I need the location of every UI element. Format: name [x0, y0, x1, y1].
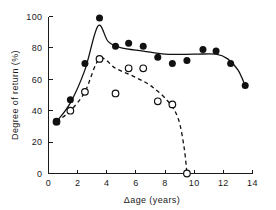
y-axis-tick-labels: 020406080100	[26, 12, 42, 179]
x-axis-tick-marks	[49, 170, 253, 174]
x-tick-label: 6	[133, 178, 138, 188]
chart-axes	[49, 17, 253, 174]
axis-lines	[49, 17, 253, 174]
y-axis-tick-marks	[49, 17, 53, 143]
x-tick-label: 8	[162, 178, 167, 188]
data-point-marker	[67, 107, 74, 114]
x-tick-label: 4	[104, 178, 109, 188]
y-axis-title: Degree of return (%)	[10, 50, 20, 140]
data-point-marker	[227, 60, 234, 67]
filled-circle-series-curve	[57, 25, 246, 122]
y-tick-label: 40	[32, 106, 43, 116]
data-point-marker	[125, 40, 132, 47]
data-point-marker	[82, 89, 89, 96]
y-tick-label: 20	[32, 137, 43, 147]
chart-series-layer	[53, 15, 249, 177]
x-axis-title: Δage (years)	[124, 195, 180, 205]
y-tick-label: 100	[26, 12, 42, 22]
x-tick-label: 2	[75, 178, 80, 188]
y-tick-label: 60	[32, 75, 43, 85]
data-point-marker	[112, 43, 119, 50]
x-tick-label: 12	[218, 178, 229, 188]
filled-circle-data-points	[53, 15, 249, 126]
data-point-marker	[112, 90, 119, 97]
data-point-marker	[242, 82, 249, 89]
open-circle-series-curve	[57, 58, 187, 173]
data-point-marker	[154, 54, 161, 61]
data-point-marker	[154, 98, 161, 105]
data-point-marker	[96, 15, 103, 22]
data-point-marker	[183, 57, 190, 64]
x-tick-label: 14	[247, 178, 258, 188]
data-point-marker	[140, 43, 147, 50]
y-tick-label: 0	[37, 169, 42, 179]
data-point-marker	[169, 60, 176, 67]
chart-figure: 02468101214 020406080100 Δage (years) De…	[0, 0, 276, 210]
degree-of-return-scatter-chart: 02468101214 020406080100 Δage (years) De…	[0, 0, 276, 210]
open-circle-data-points	[53, 56, 190, 177]
data-point-marker	[199, 46, 206, 53]
data-point-marker	[81, 60, 88, 67]
y-tick-label: 80	[32, 43, 43, 53]
x-axis-tick-labels: 02468101214	[46, 178, 258, 188]
data-point-marker	[213, 48, 220, 55]
data-point-marker	[53, 118, 60, 125]
data-point-marker	[184, 170, 191, 177]
data-point-marker	[67, 96, 74, 103]
data-point-marker	[125, 65, 132, 72]
x-tick-label: 0	[46, 178, 51, 188]
data-point-marker	[140, 65, 147, 72]
data-point-marker	[96, 56, 103, 63]
data-point-marker	[169, 101, 176, 108]
x-tick-label: 10	[189, 178, 200, 188]
